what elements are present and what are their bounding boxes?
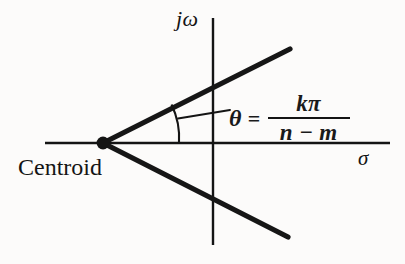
fraction-denominator: n − m	[277, 119, 341, 145]
asymptote-angle-equation: θ = kπ n − m	[229, 92, 350, 145]
equals-sign: =	[248, 106, 268, 132]
centroid-point-marker	[97, 137, 110, 150]
fraction-numerator: kπ	[293, 92, 324, 117]
root-locus-asymptote-figure: jω σ Centroid θ = kπ n − m	[0, 0, 405, 264]
angle-leader-line	[178, 110, 230, 119]
angle-fraction: kπ n − m	[268, 92, 350, 145]
theta-symbol: θ	[229, 105, 248, 132]
real-axis-label: σ	[358, 148, 368, 169]
imaginary-axis-label: jω	[176, 8, 199, 30]
centroid-label: Centroid	[18, 155, 102, 179]
lower-asymptote-line	[103, 143, 288, 237]
